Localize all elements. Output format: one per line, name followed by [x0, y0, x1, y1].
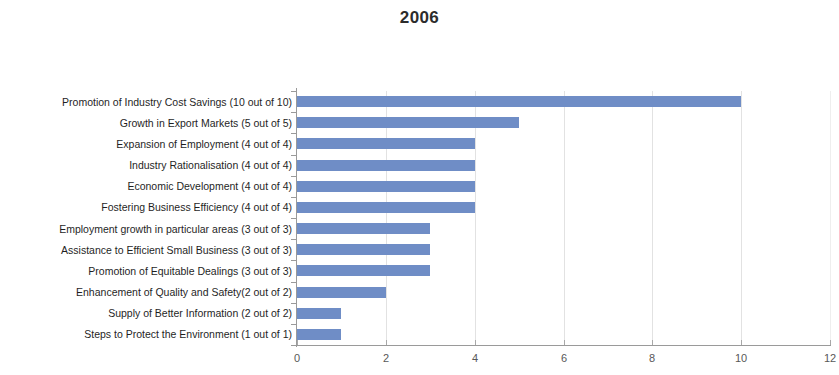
category-label: Industry Rationalisation (4 out of 4) [2, 159, 292, 171]
bar [297, 202, 475, 213]
x-axis-tick [741, 340, 742, 345]
category-label: Steps to Protect the Environment (1 out … [2, 328, 292, 340]
category-label: Fostering Business Efficiency (4 out of … [2, 201, 292, 213]
bar [297, 117, 519, 128]
y-axis-tick [291, 218, 296, 219]
category-label: Economic Development (4 out of 4) [2, 180, 292, 192]
x-axis-tick-label: 12 [810, 352, 839, 364]
y-axis-tick [291, 133, 296, 134]
gridline-4 [475, 91, 476, 345]
y-axis-tick [291, 197, 296, 198]
x-axis-tick [830, 340, 831, 345]
category-label: Growth in Export Markets (5 out of 5) [2, 117, 292, 129]
bar [297, 223, 430, 234]
x-axis-tick [652, 340, 653, 345]
gridline-10 [741, 91, 742, 345]
x-axis-tick [475, 340, 476, 345]
x-axis-tick-label: 6 [544, 352, 584, 364]
y-axis-tick [291, 239, 296, 240]
gridline-12 [830, 91, 831, 345]
category-label: Promotion of Industry Cost Savings (10 o… [2, 96, 292, 108]
category-label: Supply of Better Information (2 out of 2… [2, 307, 292, 319]
y-axis-tick [291, 176, 296, 177]
category-label: Enhancement of Quality and Safety(2 out … [2, 286, 292, 298]
category-label: Assistance to Efficient Small Business (… [2, 244, 292, 256]
x-axis-tick-label: 10 [721, 352, 761, 364]
x-axis-line [296, 345, 831, 346]
gridline-2 [386, 91, 387, 345]
y-axis-tick [291, 303, 296, 304]
y-axis-tick [291, 324, 296, 325]
category-label: Promotion of Equitable Dealings (3 out o… [2, 265, 292, 277]
bar [297, 160, 475, 171]
x-axis-tick [386, 340, 387, 345]
x-axis-tick-label: 8 [632, 352, 672, 364]
bar [297, 244, 430, 255]
bar [297, 308, 341, 319]
bar-chart: 2006 Promotion of Industry Cost Savings … [0, 0, 839, 375]
y-axis-tick [291, 155, 296, 156]
x-axis-tick-label: 4 [455, 352, 495, 364]
bar [297, 329, 341, 340]
x-axis-tick-label: 0 [277, 352, 317, 364]
y-axis-tick [291, 345, 296, 346]
gridline-6 [564, 91, 565, 345]
y-axis-tick [291, 260, 296, 261]
bar [297, 181, 475, 192]
bar [297, 138, 475, 149]
y-axis-tick [291, 112, 296, 113]
gridline-8 [652, 91, 653, 345]
plot-area [297, 91, 830, 345]
bar [297, 287, 386, 298]
category-label: Employment growth in particular areas (3… [2, 223, 292, 235]
y-axis-tick [291, 282, 296, 283]
category-axis-labels: Promotion of Industry Cost Savings (10 o… [0, 0, 292, 375]
x-axis-tick-label: 2 [366, 352, 406, 364]
bar [297, 96, 741, 107]
bar [297, 265, 430, 276]
y-axis-tick [291, 91, 296, 92]
category-label: Expansion of Employment (4 out of 4) [2, 138, 292, 150]
x-axis-tick [564, 340, 565, 345]
x-axis-tick [297, 340, 298, 345]
